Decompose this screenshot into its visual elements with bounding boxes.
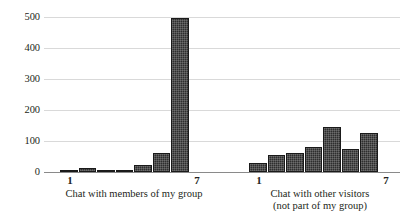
y-tick-label-400: 400 [6,43,40,54]
bar [153,153,171,172]
bar [305,147,323,172]
bar [171,18,189,172]
bar-chart-figure: 500 400 300 200 100 0 1 7 1 7 Chat with … [0,0,415,218]
x-tick-label-group1-last: 7 [376,174,396,186]
group-caption-chat-with-members: Chat with members of my group [45,188,223,200]
group-caption-line2: (not part of my group) [240,200,400,212]
bar [323,127,341,172]
group-caption-chat-with-other-visitors: Chat with other visitors (not part of my… [240,188,400,212]
bar [360,133,378,172]
bar [134,165,152,172]
group-caption-line1: Chat with other visitors [271,188,370,199]
x-tick-label-group1-first: 1 [249,174,269,186]
bar [342,149,360,172]
group-caption-line1: Chat with members of my group [66,188,203,199]
y-tick-label-500: 500 [6,12,40,23]
plot-area [44,17,400,172]
x-axis-line [44,172,400,173]
x-tick-label-group0-last: 7 [187,174,207,186]
bar-group-chat-with-members-of-my-group [60,17,208,172]
bar [268,155,286,172]
x-tick-label-group0-first: 1 [60,174,80,186]
y-tick-label-300: 300 [6,74,40,85]
bar [286,153,304,172]
y-tick-label-0: 0 [6,167,40,178]
bar-group-chat-with-other-visitors [249,17,397,172]
y-axis: 500 400 300 200 100 0 [0,0,40,218]
y-tick-label-200: 200 [6,105,40,116]
bar [249,163,267,172]
y-tick-label-100: 100 [6,136,40,147]
